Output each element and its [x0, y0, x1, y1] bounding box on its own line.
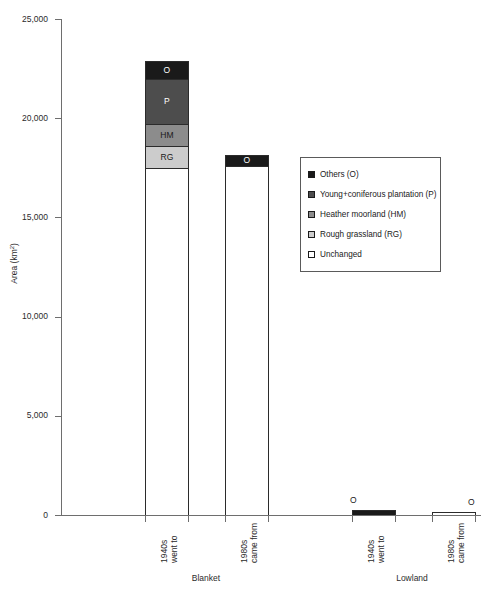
bar-segment-hm: HM — [146, 124, 188, 146]
bar-segment-un — [226, 166, 268, 515]
bar-1: OPHMRG — [145, 61, 189, 515]
y-axis-title-exponent: 2 — [9, 246, 15, 249]
x-axis-category-label: 1940s went to — [366, 536, 386, 563]
y-axis-title-text: Area (km — [9, 249, 19, 283]
x-axis-tick-mark — [188, 515, 189, 522]
x-axis-tick-mark — [225, 515, 226, 522]
legend-swatch-icon — [308, 251, 315, 258]
x-axis-tick-mark — [145, 515, 146, 522]
x-axis-tick-mark — [268, 515, 269, 522]
x-axis-category-label: 1980s came from — [239, 523, 259, 563]
x-axis-category-label: 1940s went to — [159, 536, 179, 563]
legend-item-label: Others (O) — [320, 170, 359, 179]
legend-item[interactable]: Young+coniferous plantation (P) — [308, 184, 433, 204]
legend-swatch-icon — [308, 191, 315, 198]
bar-segment-un — [146, 168, 188, 515]
chart-canvas: 25,00020,00015,00010,0005,0000 Area (km2… — [0, 0, 487, 596]
legend-swatch-icon — [308, 231, 315, 238]
y-axis-title-close: ) — [9, 243, 19, 246]
x-axis-line — [61, 515, 481, 516]
x-axis-group-label: Lowland — [352, 573, 472, 583]
legend-item-label: Heather moorland (HM) — [320, 210, 406, 219]
legend-item-label: Young+coniferous plantation (P) — [320, 190, 436, 199]
y-axis-tick-label: 0 — [0, 511, 48, 520]
x-axis-tick-mark — [432, 515, 433, 522]
legend-item[interactable]: Unchanged — [308, 244, 433, 264]
x-axis-category-label: 1980s came from — [446, 523, 466, 563]
y-axis-tick-label: 20,000 — [0, 114, 48, 123]
legend-swatch-icon — [308, 171, 315, 178]
legend-rows: Others (O)Young+coniferous plantation (P… — [308, 164, 433, 264]
y-axis-tick-mark — [55, 19, 62, 20]
bar-segment-o — [353, 510, 395, 515]
bar-3 — [352, 510, 396, 515]
legend-item-label: Rough grassland (RG) — [320, 230, 402, 239]
chart-legend: Others (O)Young+coniferous plantation (P… — [300, 157, 441, 272]
bar-segment-label: P — [164, 97, 170, 106]
bar-segment-label: RG — [160, 153, 173, 162]
bar-segment-label: HM — [160, 131, 174, 140]
bar-2: O — [225, 155, 269, 515]
bar-segment-un — [433, 512, 475, 515]
bar-4 — [432, 512, 476, 515]
bar-segment-p: P — [146, 79, 188, 125]
legend-item[interactable]: Rough grassland (RG) — [308, 224, 433, 244]
y-axis-tick-mark — [55, 317, 62, 318]
x-axis-tick-mark — [395, 515, 396, 522]
y-axis-tick-label: 5,000 — [0, 411, 48, 420]
y-axis-tick-mark — [55, 217, 62, 218]
y-axis-tick-label: 25,000 — [0, 15, 48, 24]
y-axis-tick-mark — [55, 118, 62, 119]
y-axis-tick-label: 15,000 — [0, 213, 48, 222]
x-axis-tick-mark — [352, 515, 353, 522]
bar-segment-o: O — [226, 155, 268, 166]
legend-item[interactable]: Others (O) — [308, 164, 433, 184]
bar-callout-label: O — [350, 496, 357, 505]
x-axis-group-label: Blanket — [146, 573, 266, 583]
y-axis-tick-mark — [55, 416, 62, 417]
legend-item-label: Unchanged — [320, 250, 362, 259]
bar-segment-o: O — [146, 61, 188, 79]
bar-segment-label: O — [164, 66, 171, 75]
bar-callout-label: O — [468, 498, 475, 507]
bar-segment-label: O — [244, 156, 251, 165]
bar-segment-rg: RG — [146, 146, 188, 168]
y-axis-title: Area (km2) — [9, 233, 20, 293]
y-axis-tick-label: 10,000 — [0, 312, 48, 321]
y-axis-tick-mark — [55, 515, 62, 516]
legend-item[interactable]: Heather moorland (HM) — [308, 204, 433, 224]
y-axis-line — [61, 19, 62, 516]
legend-swatch-icon — [308, 211, 315, 218]
x-axis-tick-mark — [475, 515, 476, 522]
